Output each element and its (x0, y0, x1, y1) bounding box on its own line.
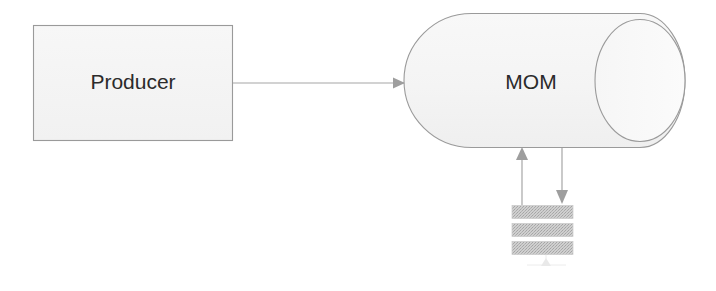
edge-rack-to-mom[interactable] (516, 147, 528, 205)
producer-label: Producer (90, 70, 175, 93)
diagram-canvas: Producer MOM (0, 0, 716, 291)
mom-cylinder-end-cap (595, 20, 685, 142)
edge-mom-to-rack[interactable] (556, 148, 568, 204)
node-mom[interactable]: MOM (404, 14, 685, 148)
rack-base (527, 255, 566, 266)
rack-to-mom-arrowhead (516, 147, 528, 160)
edge-producer-to-mom[interactable] (233, 78, 405, 89)
node-producer[interactable]: Producer (34, 26, 233, 141)
node-consumer-rack[interactable] (512, 206, 573, 267)
rack-unit-3 (512, 242, 573, 255)
rack-unit-1 (512, 206, 573, 219)
mom-label: MOM (505, 70, 556, 93)
diagram-svg: Producer MOM (0, 0, 716, 291)
producer-to-mom-arrowhead (393, 78, 405, 89)
mom-to-rack-arrowhead (556, 190, 568, 204)
rack-unit-2 (512, 224, 573, 237)
